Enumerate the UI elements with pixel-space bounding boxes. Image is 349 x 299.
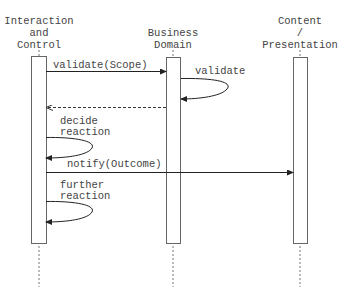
message-further-reaction: further reaction (46, 179, 110, 222)
self-call-arrow (181, 78, 228, 99)
message-validate-self: validate (181, 65, 245, 99)
participant-label-line: Control (17, 39, 61, 51)
participant-interaction-control: Interaction and Control (4, 15, 73, 287)
message-label-line: reaction (60, 126, 110, 138)
self-call-arrow (46, 137, 92, 158)
participant-business-domain: Business Domain (148, 27, 198, 287)
participant-label-line: / (297, 27, 303, 39)
participant-label-line: and (30, 27, 49, 39)
participant-label-line: Business (148, 27, 198, 39)
message-label: notify(Outcome) (67, 158, 162, 170)
participant-label-line: Interaction (4, 15, 73, 27)
participant-label-line: Domain (154, 39, 192, 51)
participant-label-line: Content (278, 15, 322, 27)
participant-label-line: Presentation (262, 39, 338, 51)
message-validate-scope: validate(Scope) (46, 59, 166, 72)
activation-box (294, 58, 308, 244)
sequence-diagram: Interaction and Control Business Domain … (0, 0, 349, 299)
message-decide-reaction: decide reaction (46, 115, 110, 158)
participant-content-presentation: Content / Presentation (262, 15, 338, 287)
message-label-line: reaction (60, 190, 110, 202)
self-call-arrow (46, 201, 92, 222)
activation-box (167, 58, 181, 244)
message-label: validate(Scope) (53, 59, 148, 71)
message-label: validate (195, 65, 245, 77)
activation-box (32, 57, 47, 244)
